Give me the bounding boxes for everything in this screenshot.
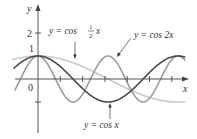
arrow-head-icon bbox=[117, 52, 121, 57]
ann-2x-pre: y = cos 2 bbox=[133, 30, 169, 40]
arrow-line bbox=[119, 38, 131, 54]
ann-2x-post: x bbox=[168, 30, 174, 40]
y-axis-arrow-icon bbox=[36, 4, 41, 11]
y-tick-label-2: 2 bbox=[27, 28, 32, 39]
origin-label: 0 bbox=[28, 82, 33, 93]
annotation-cos-half-x: y = cos 1 2 x bbox=[48, 23, 101, 59]
ann-half-num: 1 bbox=[89, 23, 93, 31]
svg-text:y = cos x: y = cos x bbox=[83, 120, 119, 130]
ann-x-pre: y = cos bbox=[83, 120, 112, 130]
svg-text:y = cos: y = cos bbox=[48, 26, 77, 36]
svg-text:y = cos 2x: y = cos 2x bbox=[133, 30, 174, 40]
y-tick-label-1: 1 bbox=[29, 43, 34, 54]
cosine-chart: y x 0 1 2 y = cos 1 2 x y = cos 2x y = c… bbox=[0, 0, 197, 139]
ann-x-post: x bbox=[113, 120, 119, 130]
y-axis-label: y bbox=[26, 3, 32, 14]
annotation-cos-2x: y = cos 2x bbox=[117, 30, 174, 57]
annotation-cos-x: y = cos x bbox=[83, 103, 119, 130]
x-axis-arrow-icon bbox=[182, 77, 189, 82]
ann-half-den: 2 bbox=[89, 32, 93, 40]
arrow-head-icon bbox=[73, 55, 76, 60]
arrow-head-icon bbox=[108, 103, 111, 108]
ann-half-post: x bbox=[95, 26, 101, 36]
ann-half-pre: y = cos bbox=[48, 26, 77, 36]
x-axis-label: x bbox=[182, 83, 188, 94]
